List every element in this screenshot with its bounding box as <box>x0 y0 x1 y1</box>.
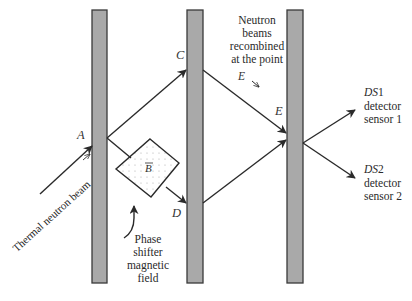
interferometer-diagram <box>0 0 412 301</box>
beam-d-to-e <box>203 140 286 203</box>
beam-shifter-to-d <box>166 187 186 203</box>
point-e-indicator-arrow <box>252 81 259 87</box>
ds2-name: DS <box>364 163 378 175</box>
mirror-plate-2 <box>187 10 203 283</box>
ds2-line-2: detector <box>364 177 402 191</box>
field-b-symbol: B <box>145 162 152 174</box>
beam-a-to-shifter <box>107 138 131 158</box>
ds1-number: 1 <box>378 86 384 98</box>
phase-shifter-line-2: shifter <box>118 246 178 259</box>
ds2-line-3: sensor 2 <box>364 190 402 204</box>
phase-shifter-line-4: field <box>118 272 178 285</box>
detector-1-label: DS1 detector sensor 1 <box>364 86 402 127</box>
ds2-number: 2 <box>378 163 384 175</box>
recombined-line-3: recombined <box>222 40 292 53</box>
recombined-label: Neutron beams recombined at the point <box>222 14 292 66</box>
beam-a-to-c <box>107 70 186 138</box>
beam-to-ds2 <box>303 143 355 178</box>
phase-shifter-line-3: magnetic <box>118 259 178 272</box>
point-a-label: A <box>77 128 85 143</box>
detector-2-label: DS2 detector sensor 2 <box>364 163 402 204</box>
beam-label-arrow <box>83 154 90 160</box>
recombined-line-1: Neutron <box>222 14 292 27</box>
recombined-line-4: at the point <box>222 53 292 66</box>
phase-shifter-line-1: Phase <box>118 233 178 246</box>
point-e-label: E <box>275 104 283 119</box>
beam-to-ds1 <box>303 110 355 143</box>
point-c-label: C <box>176 48 184 63</box>
point-d-label: D <box>172 206 181 221</box>
ds1-name: DS <box>364 86 378 98</box>
beam-splitter-plate-1 <box>92 10 107 283</box>
recombined-point-e: E <box>238 70 245 82</box>
phase-shifter-label: Phase shifter magnetic field <box>118 233 178 285</box>
ds1-line-3: sensor 1 <box>364 113 402 127</box>
recombined-line-2: beams <box>222 27 292 40</box>
ds1-line-2: detector <box>364 100 402 114</box>
